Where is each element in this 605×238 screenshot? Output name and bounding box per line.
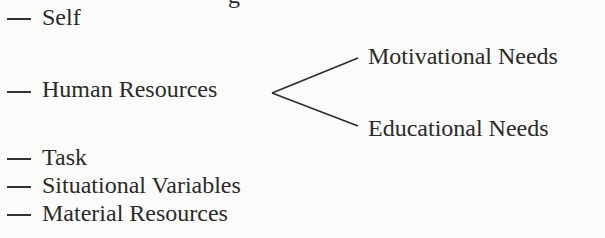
- dash-icon: [7, 158, 31, 160]
- item-label: Situational Variables: [42, 171, 241, 199]
- list-item-task: Task: [0, 143, 300, 171]
- branch-motivational-needs: Motivational Needs: [368, 42, 558, 70]
- list-item-material-resources: Material Resources: [0, 199, 300, 227]
- list-item-situational-variables: Situational Variables: [0, 171, 300, 199]
- item-label: Task: [42, 143, 87, 171]
- item-label: Material Resources: [42, 199, 228, 227]
- branch-educational-needs: Educational Needs: [368, 114, 549, 142]
- dash-icon: [7, 214, 31, 216]
- dash-icon: [7, 186, 31, 188]
